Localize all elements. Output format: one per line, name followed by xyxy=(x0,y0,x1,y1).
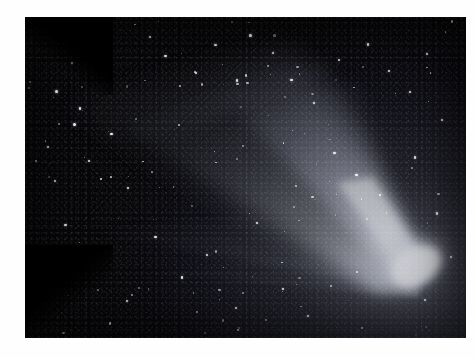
screenshot-root xyxy=(0,0,475,358)
corner-vignette-top-left xyxy=(25,17,113,95)
corner-vignette-bottom-left xyxy=(25,245,113,338)
comet-photograph xyxy=(25,17,466,338)
